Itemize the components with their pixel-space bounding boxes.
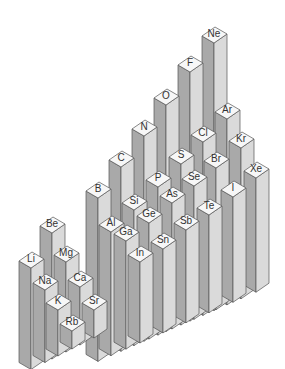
element-symbol-label: Mg	[59, 247, 73, 258]
diagram-canvas: NeFOArNClCKrSBrBPSeXeSiAsBeIGeAlTeGaSbLi…	[0, 0, 285, 369]
element-symbol-label: Na	[39, 275, 52, 286]
element-symbol-label: F	[187, 57, 193, 68]
column-left-face	[19, 261, 31, 369]
element-symbol-label: As	[166, 188, 178, 199]
element-column-sr: Sr	[82, 294, 107, 338]
column-left-face	[99, 225, 111, 356]
element-column-i: I	[221, 181, 246, 302]
column-left-face	[221, 190, 233, 302]
column-right-face	[186, 221, 199, 323]
element-symbol-label: In	[136, 247, 144, 258]
periodic-3d-diagram: NeFOArNClCKrSBrBPSeXeSiAsBeIGeAlTeGaSbLi…	[0, 0, 285, 369]
element-symbol-label: Sb	[180, 215, 193, 226]
element-symbol-label: N	[140, 121, 147, 132]
element-symbol-label: Al	[107, 217, 116, 228]
column-left-face	[46, 303, 58, 356]
element-symbol-label: S	[178, 149, 185, 160]
element-symbol-label: B	[95, 183, 102, 194]
element-symbol-label: Ar	[222, 104, 233, 115]
element-symbol-label: Ca	[74, 272, 87, 283]
column-left-face	[128, 255, 140, 343]
element-symbol-label: C	[117, 152, 124, 163]
element-symbol-label: Br	[211, 153, 222, 164]
column-right-face	[256, 169, 269, 292]
element-column-xe: Xe	[244, 162, 269, 292]
element-column-te: Te	[197, 199, 222, 313]
element-symbol-label: Ge	[142, 208, 156, 219]
element-symbol-label: Ga	[119, 226, 133, 237]
column-left-face	[33, 283, 45, 363]
element-symbol-label: P	[155, 172, 162, 183]
element-symbol-label: Cl	[198, 127, 207, 138]
column-right-face	[209, 206, 222, 313]
element-column-in: In	[128, 246, 153, 343]
element-symbol-label: Xe	[250, 163, 263, 174]
column-left-face	[114, 234, 126, 349]
element-symbol-label: Li	[27, 253, 35, 264]
element-column-sb: Sb	[174, 214, 199, 323]
column-right-face	[233, 188, 246, 302]
element-symbol-label: Sr	[89, 295, 100, 306]
element-symbol-label: Sn	[157, 234, 169, 245]
element-symbol-label: Te	[204, 200, 215, 211]
element-symbol-label: K	[55, 295, 62, 306]
element-symbol-label: Ne	[208, 28, 221, 39]
element-symbol-label: Rb	[66, 316, 79, 327]
element-column-sn: Sn	[151, 233, 176, 333]
element-symbol-label: Se	[188, 171, 201, 182]
element-symbol-label: O	[162, 90, 170, 101]
column-right-face	[163, 240, 176, 333]
element-symbol-label: I	[232, 182, 235, 193]
element-symbol-label: Be	[46, 218, 59, 229]
element-symbol-label: Kr	[236, 133, 247, 144]
element-columns: NeFOArNClCKrSBrBPSeXeSiAsBeIGeAlTeGaSbLi…	[19, 27, 269, 369]
element-symbol-label: Si	[130, 195, 139, 206]
column-right-face	[140, 253, 153, 343]
